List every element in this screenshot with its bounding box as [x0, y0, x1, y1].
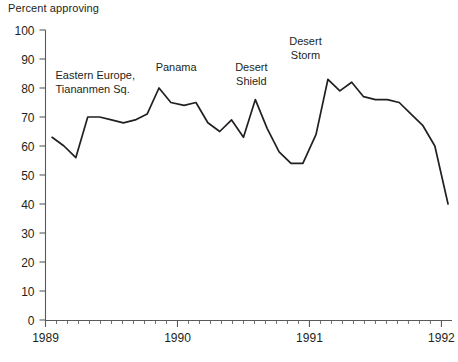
y-tick-label: 90	[21, 53, 35, 67]
y-tick-label: 80	[21, 82, 35, 96]
x-axis-tick-labels: 1989199019911992	[32, 331, 455, 345]
y-tick-label: 0	[28, 314, 35, 328]
annotation: Eastern Europe,Tiananmen Sq.	[56, 69, 136, 95]
y-axis-tick-labels: 0102030405060708090100	[14, 24, 34, 328]
chart-plot-area: Eastern Europe,Tiananmen Sq.PanamaDesert…	[0, 0, 458, 362]
x-tick-label: 1991	[296, 331, 323, 345]
y-tick-label: 40	[21, 198, 35, 212]
y-axis-ticks	[40, 30, 46, 320]
annotation: DesertShield	[235, 61, 267, 87]
x-tick-label: 1990	[164, 331, 191, 345]
annotation: DesertStorm	[289, 35, 321, 61]
y-tick-label: 10	[21, 285, 35, 299]
annotation-line: Tiananmen Sq.	[56, 83, 130, 95]
annotation-line: Desert	[235, 61, 267, 73]
approval-line	[52, 79, 448, 204]
y-tick-label: 70	[21, 111, 35, 125]
annotation-line: Shield	[236, 75, 267, 87]
x-tick-label: 1992	[428, 331, 455, 345]
annotation-line: Panama	[156, 61, 198, 73]
y-tick-label: 60	[21, 140, 35, 154]
y-tick-label: 30	[21, 227, 35, 241]
annotation-line: Desert	[289, 35, 321, 47]
annotation-line: Storm	[291, 49, 320, 61]
x-tick-label: 1989	[32, 331, 59, 345]
annotation-line: Eastern Europe,	[56, 69, 136, 81]
y-tick-label: 20	[21, 256, 35, 270]
approval-rating-chart: Percent approving Eastern Europe,Tiananm…	[0, 0, 458, 362]
chart-annotations: Eastern Europe,Tiananmen Sq.PanamaDesert…	[56, 35, 322, 96]
y-tick-label: 50	[21, 169, 35, 183]
y-tick-label: 100	[14, 24, 34, 38]
annotation: Panama	[156, 61, 198, 73]
